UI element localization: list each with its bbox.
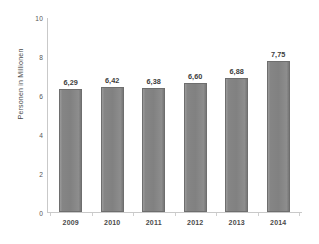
x-axis-category-label: 2012 [187, 219, 203, 226]
x-axis-tick-mark [92, 213, 93, 216]
x-axis-tick-mark [216, 213, 217, 216]
bar-value-label: 6,60 [188, 72, 203, 81]
bar-value-label: 7,75 [271, 50, 286, 59]
y-axis-tick-label: 4 [39, 132, 43, 139]
plot-area: 0246810 6,2920096,4220106,3820116,602012… [47, 18, 302, 213]
bar-value-label: 6,38 [146, 77, 161, 86]
x-axis-category-label: 2011 [146, 219, 162, 226]
y-axis-tick-label: 8 [39, 54, 43, 61]
x-axis-tick-mark [50, 213, 51, 216]
bar-value-label: 6,88 [229, 67, 244, 76]
bar-chart-figure: Personen in Millionen 0246810 6,2920096,… [0, 0, 319, 244]
y-axis-line [47, 18, 48, 213]
bar-value-label: 6,42 [105, 76, 120, 85]
x-axis-category-label: 2014 [270, 219, 286, 226]
bar-rect[interactable] [59, 89, 82, 212]
bar-rect[interactable] [267, 61, 290, 212]
bar-group[interactable]: 6,422010 [101, 87, 124, 212]
x-axis-category-label: 2009 [63, 219, 79, 226]
x-axis-category-label: 2013 [229, 219, 245, 226]
bar-rect[interactable] [184, 83, 207, 212]
bar-rect[interactable] [101, 87, 124, 212]
x-axis-tick-mark [175, 213, 176, 216]
bar-rect[interactable] [225, 78, 248, 212]
y-axis-tick-label: 2 [39, 171, 43, 178]
bar-group[interactable]: 6,292009 [59, 89, 82, 212]
x-axis-tick-mark [299, 213, 300, 216]
y-axis-title: Personen in Millionen [17, 24, 25, 144]
bar-group[interactable]: 7,752014 [267, 61, 290, 212]
x-axis-tick-mark [258, 213, 259, 216]
bar-group[interactable]: 6,602012 [184, 83, 207, 212]
y-axis-tick-label: 6 [39, 93, 43, 100]
x-axis-tick-mark [133, 213, 134, 216]
y-axis-tick-label: 0 [39, 210, 43, 217]
y-axis-tick-label: 10 [35, 15, 43, 22]
bar-group[interactable]: 6,882013 [225, 78, 248, 212]
bar-value-label: 6,29 [63, 78, 78, 87]
bar-group[interactable]: 6,382011 [142, 88, 165, 212]
bar-rect[interactable] [142, 88, 165, 212]
x-axis-category-label: 2010 [104, 219, 120, 226]
